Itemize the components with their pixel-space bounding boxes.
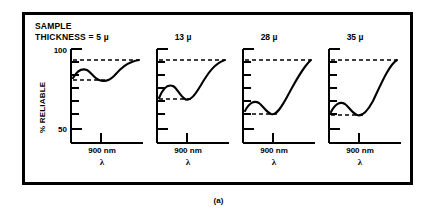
x-tick-label-panel-13u: 900 nm [165,146,211,155]
x-axis-label-panel-28u: λ [251,157,297,167]
x-tick-label-panel-28u: 900 nm [251,146,297,155]
x-axis-label-panel-5u: λ [79,157,125,167]
x-tick-label-panel-5u: 900 nm [79,146,125,155]
figure-root: SAMPLE THICKNESS = 5 µ 13 µ 28 µ 35 µ % … [0,0,437,216]
x-axis-label-panel-13u: λ [165,157,211,167]
x-tick-label-panel-35u: 900 nm [337,146,383,155]
figure-caption: (a) [0,196,437,205]
x-axis-label-panel-35u: λ [337,157,383,167]
figure-frame: SAMPLE THICKNESS = 5 µ 13 µ 28 µ 35 µ % … [22,12,413,185]
